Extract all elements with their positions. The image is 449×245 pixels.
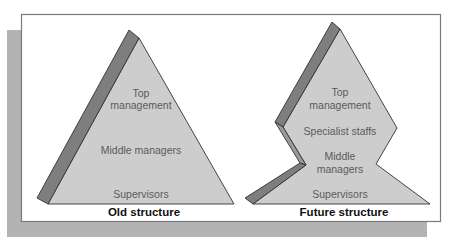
future-level-management: management: [309, 99, 370, 111]
old-level-middle-managers: Middle managers: [101, 144, 182, 156]
old-level-supervisors: Supervisors: [113, 188, 168, 200]
future-level-specialist-staffs: Specialist staffs: [304, 125, 377, 137]
future-level-managers: managers: [317, 163, 364, 175]
future-level-middle: Middle: [325, 150, 356, 162]
old-level-top: Top: [133, 87, 150, 99]
old-structure-caption: Old structure: [108, 206, 180, 218]
future-structure-caption: Future structure: [300, 206, 389, 218]
old-level-management: management: [110, 99, 171, 111]
organization-structure-diagram: Top management Middle managers Superviso…: [0, 0, 449, 245]
future-level-top: Top: [332, 86, 349, 98]
future-level-supervisors: Supervisors: [312, 188, 367, 200]
